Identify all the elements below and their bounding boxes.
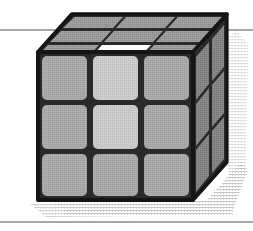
rubiks-cube [36,14,227,200]
front-cell-r2c2 [93,105,138,149]
cube-illustration-svg [0,0,253,231]
front-cell-r3c3 [144,154,189,196]
front-cell-r3c2 [93,154,138,196]
front-cell-r3c1 [42,154,87,196]
illustration-canvas: Rubik's Cube Line Illustration [0,0,253,231]
front-cell-r1c3 [144,56,189,100]
top-cell-r1c2 [116,17,175,28]
top-cell-r2c2 [104,31,163,42]
front-cell-r1c1 [42,56,87,100]
front-cell-r1c2 [93,56,138,100]
front-face [38,52,193,200]
front-cell-r2c1 [42,105,87,149]
front-cell-r2c3 [144,105,189,149]
